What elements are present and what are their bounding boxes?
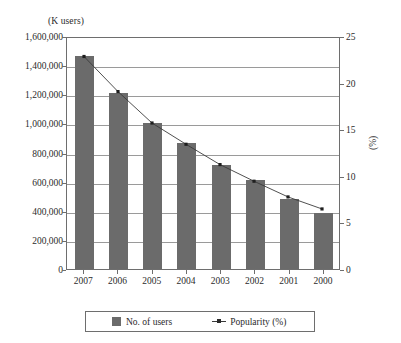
legend-label-users: No. of users (126, 317, 172, 327)
y2-axis-tick-label: 5 (346, 218, 370, 228)
y-axis-tick-label: 800,000 (3, 149, 63, 159)
popularity-line (84, 56, 322, 208)
line-data-point (252, 180, 255, 183)
x-axis-tick-mark (117, 270, 118, 274)
x-axis-tick-mark (152, 270, 153, 274)
bar-swatch-icon (112, 317, 121, 326)
y-axis-tick-label: 1,000,000 (3, 119, 63, 129)
x-axis-tick-mark (254, 270, 255, 274)
y2-axis-tick-label: 10 (346, 172, 370, 182)
y-axis-tick-mark (62, 270, 66, 271)
x-axis-tick-mark (83, 270, 84, 274)
right-axis-title: (%) (368, 136, 378, 150)
y-axis-tick-label: 1,200,000 (3, 90, 63, 100)
line-data-point (150, 121, 153, 124)
y2-axis-tick-mark (340, 84, 344, 85)
y-axis-tick-label: 1,600,000 (3, 32, 63, 42)
line-series (67, 38, 339, 269)
y-axis-tick-label: 200,000 (3, 236, 63, 246)
x-axis-tick-mark (323, 270, 324, 274)
y2-axis-tick-label: 0 (346, 265, 370, 275)
chart-legend: No. of users Popularity (%) (85, 311, 315, 332)
plot-area (66, 37, 340, 270)
chart-container: (K users) (%) 0200,000400,000600,000800,… (0, 0, 401, 343)
line-data-point (184, 143, 187, 146)
y-axis-tick-label: 0 (3, 265, 63, 275)
y2-axis-tick-label: 20 (346, 79, 370, 89)
y-axis-tick-label: 400,000 (3, 207, 63, 217)
legend-label-popularity: Popularity (%) (230, 317, 286, 327)
line-data-point (218, 163, 221, 166)
y2-axis-tick-mark (340, 37, 344, 38)
left-axis-title: (K users) (48, 16, 84, 26)
y-axis-tick-label: 600,000 (3, 178, 63, 188)
y2-axis-tick-mark (340, 130, 344, 131)
line-data-point (116, 90, 119, 93)
x-axis-tick-label: 2000 (303, 276, 343, 286)
y2-axis-tick-label: 15 (346, 125, 370, 135)
y2-axis-tick-label: 25 (346, 32, 370, 42)
y2-axis-tick-mark (340, 270, 344, 271)
x-axis-tick-mark (186, 270, 187, 274)
x-axis-tick-mark (220, 270, 221, 274)
x-axis-tick-mark (289, 270, 290, 274)
y2-axis-tick-mark (340, 177, 344, 178)
line-data-point (286, 195, 289, 198)
legend-item-users: No. of users (112, 317, 172, 327)
legend-item-popularity: Popularity (%) (212, 317, 286, 327)
line-data-point (320, 207, 323, 210)
line-marker-icon (212, 317, 226, 326)
y-axis-tick-label: 1,400,000 (3, 61, 63, 71)
line-data-point (82, 55, 85, 58)
y2-axis-tick-mark (340, 223, 344, 224)
